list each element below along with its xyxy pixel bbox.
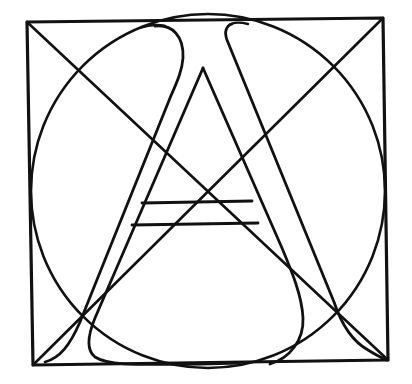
crossbar-top bbox=[142, 201, 252, 203]
letter-a-left-stroke-outer bbox=[45, 26, 183, 362]
letter-a-right-stroke bbox=[226, 24, 387, 360]
letter-a-construction-diagram bbox=[0, 0, 412, 384]
crossbar-bottom bbox=[132, 223, 258, 225]
diagonal-tr-bl bbox=[33, 18, 383, 365]
